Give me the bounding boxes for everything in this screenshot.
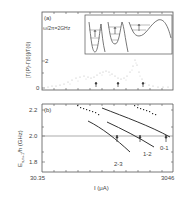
ytick-b-18: 1.8 — [29, 159, 38, 165]
dotted-segment-right — [134, 105, 156, 115]
peak-arrows — [95, 82, 144, 87]
ytick-a-2: 2 — [45, 58, 49, 64]
curve-label-2-3: 2-3 — [114, 161, 123, 167]
y-axis-label-b: En,n+1/h (GHz) — [17, 130, 25, 167]
panel-a: (a) ω/2π=2GHz 2 0 [Γ(P)-Γ(0)]/Γ(0) — [25, 12, 173, 91]
ytick-a-0: 0 — [36, 85, 40, 91]
inset-frame — [85, 15, 172, 54]
curve-0-1 — [102, 108, 170, 137]
xtick-left: 30.35 — [30, 175, 46, 181]
y-axis-label-a: [Γ(P)-Γ(0)]/Γ(0) — [25, 42, 31, 78]
svg-text:En,n+1/h (GHz): En,n+1/h (GHz) — [17, 130, 25, 167]
panel-b-label: (b) — [44, 107, 51, 113]
ytick-b-22: 2.2 — [29, 107, 38, 113]
dotted-segment-left — [77, 105, 99, 115]
curve-label-0-1: 0-1 — [160, 145, 169, 151]
enhancement-data-points — [48, 60, 169, 88]
xtick-right: 3046 — [161, 175, 175, 181]
x-axis-label: I (μA) — [94, 185, 109, 191]
curve-2-3 — [88, 121, 130, 152]
ytick-b-20: 2.0 — [29, 133, 38, 139]
panel-b: (b) 2.2 2.0 1.8 En,n+1/h (GHz) — [17, 104, 175, 191]
panel-a-label: (a) — [44, 15, 51, 21]
potential-well-inset — [85, 15, 172, 54]
figure: (a) ω/2π=2GHz 2 0 [Γ(P)-Γ(0)]/Γ(0) — [0, 0, 192, 200]
curve-label-1-2: 1-2 — [143, 151, 152, 157]
frequency-annotation: ω/2π=2GHz — [43, 25, 71, 31]
panel-a-left-ticks — [42, 61, 45, 88]
